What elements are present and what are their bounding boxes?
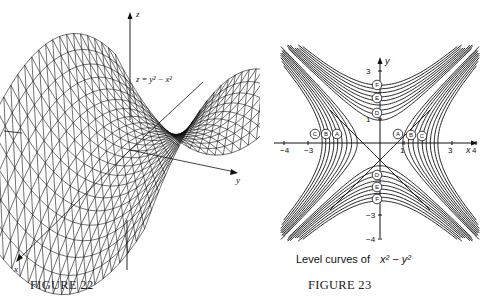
figure-23-caption: FIGURE 23 — [308, 278, 371, 293]
y-axis-label: y — [384, 56, 390, 66]
surface-equation: z = y² − x² — [135, 74, 172, 84]
curve-label-text: E — [375, 184, 379, 190]
level-curves-title: Level curves ofx² − y² — [296, 253, 411, 265]
saddle-surface-plot: z y x z = y² − x² — [0, 0, 260, 299]
figure-22-saddle-surface: z y x z = y² − x² FIGURE 22 — [0, 0, 260, 299]
curve-label-text: B — [409, 132, 413, 138]
figure-23-level-curves: x y −4−313431−3−4 CBAABCFEDDEF Level cur… — [240, 0, 480, 299]
curve-label-text: D — [375, 172, 380, 178]
curve-label-text: A — [335, 131, 339, 137]
x-tick-label: 4 — [472, 146, 477, 155]
figure-22-caption: FIGURE 22 — [30, 278, 93, 293]
curve-label-text: C — [420, 133, 425, 139]
curve-label-text: C — [313, 131, 318, 137]
y-tick-label: 3 — [366, 67, 371, 76]
x-axis-label: x — [13, 264, 18, 274]
curve-label-text: E — [375, 95, 379, 101]
curve-label-text: F — [375, 196, 379, 202]
y-tick-label: −3 — [366, 211, 376, 220]
curve-label-text: A — [396, 131, 400, 137]
curve-label-text: D — [375, 110, 380, 116]
x-tick-label: −3 — [304, 146, 314, 155]
y-tick-label: 1 — [366, 115, 371, 124]
curve-label-text: F — [375, 82, 379, 88]
z-axis-label: z — [135, 9, 140, 19]
x-tick-label: 3 — [448, 146, 453, 155]
x-tick-label: 1 — [400, 146, 405, 155]
curve-label-text: B — [324, 131, 328, 137]
y-tick-label: −4 — [366, 235, 376, 244]
x-axis-label: x — [465, 145, 471, 155]
level-curves-prefix: Level curves of — [296, 253, 370, 265]
x-tick-label: −4 — [280, 146, 290, 155]
level-curves-function: x² − y² — [380, 253, 411, 265]
